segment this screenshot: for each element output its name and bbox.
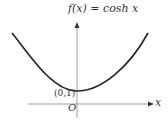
cosh-graph: f(x) = cosh x (0,1) O x <box>0 0 168 124</box>
chart-title: f(x) = cosh x <box>68 2 138 15</box>
cosh-curve <box>12 33 148 91</box>
y-axis-arrow-icon <box>75 22 80 28</box>
x-axis-label: x <box>155 96 161 109</box>
x-axis-arrow-icon <box>148 102 154 107</box>
plot-area <box>0 0 168 124</box>
origin-label: O <box>68 102 76 113</box>
point-label: (0,1) <box>54 88 75 98</box>
